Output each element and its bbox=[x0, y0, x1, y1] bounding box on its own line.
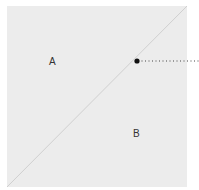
region-label-a: A bbox=[49, 56, 56, 67]
region-label-b: B bbox=[133, 128, 140, 139]
point-marker bbox=[134, 58, 139, 63]
diagram-canvas: A B bbox=[0, 0, 199, 190]
